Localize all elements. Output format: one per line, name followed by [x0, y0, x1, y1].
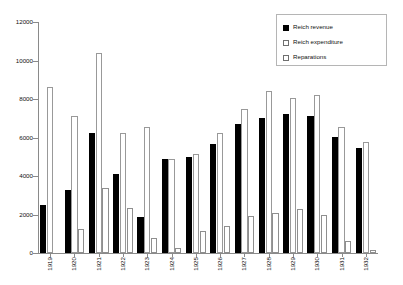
x-axis-tick	[220, 253, 221, 257]
y-axis-tick-label: 0	[2, 250, 33, 256]
bar-1924-expenditure	[168, 159, 174, 253]
y-axis-tick	[33, 176, 39, 177]
bar-1931-revenue	[332, 137, 338, 253]
bar-1921-expenditure	[96, 53, 102, 253]
bar-1926-reparations	[224, 226, 230, 253]
x-axis-tick-label: 1923	[144, 257, 150, 271]
bar-1930-expenditure	[314, 95, 320, 253]
bar-1924-reparations	[175, 248, 181, 253]
bar-1925-reparations	[200, 231, 206, 253]
x-axis-tick-label: 1931	[339, 257, 345, 271]
bar-1925-expenditure	[193, 154, 199, 253]
bar-1922-revenue	[113, 174, 119, 253]
bar-1927-reparations	[248, 216, 254, 253]
x-axis-tick-label: 1926	[217, 257, 223, 271]
legend-label-reich-expenditure: Reich expenditure	[293, 39, 343, 45]
x-axis-tick	[196, 253, 197, 257]
bar-1928-revenue	[259, 118, 265, 253]
legend-swatch-reich-revenue	[283, 25, 289, 31]
y-axis-labels: 020004000600080001000012000	[0, 0, 33, 285]
legend-item-reparations: Reparations	[283, 50, 386, 65]
y-axis-tick	[33, 99, 39, 100]
x-axis-tick	[293, 253, 294, 257]
bar-1928-expenditure	[266, 91, 272, 253]
bar-1921-revenue	[89, 133, 95, 253]
x-axis-tick	[317, 253, 318, 257]
x-axis-tick-label: 1927	[241, 257, 247, 271]
bar-1931-reparations	[345, 241, 351, 253]
x-axis-tick	[123, 253, 124, 257]
bar-1929-expenditure	[290, 98, 296, 253]
x-axis-tick	[269, 253, 270, 257]
bar-1926-revenue	[210, 144, 216, 253]
bar-1932-reparations	[370, 250, 376, 253]
y-axis-tick	[33, 253, 39, 254]
y-axis-tick	[33, 215, 39, 216]
x-axis-tick	[342, 253, 343, 257]
bar-1921-reparations	[102, 188, 108, 253]
y-axis-tick-label: 12000	[2, 19, 33, 25]
x-axis-tick	[74, 253, 75, 257]
x-axis-tick	[147, 253, 148, 257]
bar-1929-revenue	[283, 114, 289, 253]
legend-item-reich-expenditure: Reich expenditure	[283, 35, 386, 50]
bar-1932-revenue	[356, 148, 362, 253]
bar-1924-revenue	[162, 159, 168, 253]
x-axis-tick-label: 1930	[314, 257, 320, 271]
bar-chart: 020004000600080001000012000 191919201921…	[0, 0, 403, 285]
bar-1920-revenue	[65, 190, 71, 253]
bar-1927-expenditure	[241, 109, 247, 253]
x-axis-tick-label: 1921	[96, 257, 102, 271]
bar-1931-expenditure	[338, 127, 344, 253]
bar-1923-reparations	[151, 238, 157, 253]
y-axis-tick-label: 2000	[2, 212, 33, 218]
bar-1923-revenue	[137, 217, 143, 253]
x-axis-tick-label: 1924	[169, 257, 175, 271]
y-axis-tick	[33, 22, 39, 23]
bar-1930-reparations	[321, 215, 327, 254]
bar-1929-reparations	[297, 209, 303, 253]
bar-1920-expenditure	[71, 116, 77, 253]
y-axis-tick-label: 8000	[2, 96, 33, 102]
x-axis-tick-label: 1922	[120, 257, 126, 271]
x-axis-tick	[99, 253, 100, 257]
x-axis-tick-label: 1932	[363, 257, 369, 271]
x-axis-tick-label: 1929	[290, 257, 296, 271]
x-axis-tick-label: 1928	[266, 257, 272, 271]
bar-1926-expenditure	[217, 133, 223, 253]
bar-1925-revenue	[186, 157, 192, 253]
x-axis-tick	[244, 253, 245, 257]
y-axis-tick-label: 6000	[2, 135, 33, 141]
bar-1919-revenue	[40, 205, 46, 253]
bar-1927-revenue	[235, 124, 241, 253]
legend-swatch-reich-expenditure	[283, 40, 289, 46]
x-axis-tick-label: 1919	[47, 257, 53, 271]
y-axis-tick	[33, 138, 39, 139]
bar-1932-expenditure	[363, 142, 369, 253]
x-axis-tick	[172, 253, 173, 257]
y-axis-tick-label: 4000	[2, 173, 33, 179]
bar-1920-reparations	[78, 229, 84, 253]
x-axis-line	[38, 253, 378, 254]
bar-1919-expenditure	[47, 87, 53, 254]
bar-1923-expenditure	[144, 127, 150, 253]
y-axis-tick-label: 10000	[2, 58, 33, 64]
bar-1930-revenue	[307, 116, 313, 253]
legend-label-reich-revenue: Reich revenue	[293, 24, 333, 30]
bar-1922-reparations	[127, 208, 133, 253]
chart-legend: Reich revenue Reich expenditure Reparati…	[276, 14, 387, 66]
y-axis-tick	[33, 61, 39, 62]
x-axis-tick	[50, 253, 51, 257]
legend-label-reparations: Reparations	[293, 54, 326, 60]
x-axis-tick	[366, 253, 367, 257]
bar-1928-reparations	[272, 213, 278, 253]
legend-swatch-reparations	[283, 55, 289, 61]
legend-item-reich-revenue: Reich revenue	[283, 20, 386, 35]
x-axis-tick-label: 1920	[71, 257, 77, 271]
x-axis-tick-label: 1925	[193, 257, 199, 271]
bar-1922-expenditure	[120, 133, 126, 253]
